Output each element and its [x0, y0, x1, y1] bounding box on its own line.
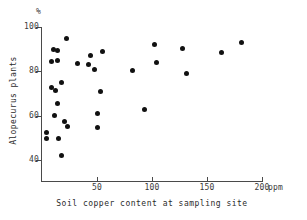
plot-area: % ppm Alopecurus plants Soil copper cont…: [0, 0, 307, 220]
y-tick-label: 100: [24, 23, 39, 31]
data-point: [59, 80, 64, 85]
data-point: [55, 101, 60, 106]
x-tick-mark: [207, 177, 208, 182]
data-point: [75, 61, 80, 66]
data-point: [59, 153, 64, 158]
data-point: [92, 67, 97, 72]
data-point: [56, 136, 61, 141]
data-point: [44, 130, 49, 135]
data-point: [142, 107, 147, 112]
x-axis-title: Soil copper content at sampling site: [41, 199, 263, 208]
x-tick-label: 100: [139, 184, 165, 192]
x-tick-mark: [152, 177, 153, 182]
y-tick-label: 40: [29, 156, 39, 164]
data-point: [152, 42, 157, 47]
scatter-plot-figure: % ppm Alopecurus plants Soil copper cont…: [0, 0, 307, 220]
y-tick-label: 80: [29, 67, 39, 75]
data-point: [55, 58, 60, 63]
data-point: [95, 111, 100, 116]
data-point: [53, 88, 58, 93]
data-point: [154, 60, 159, 65]
x-tick-mark: [262, 177, 263, 182]
data-point: [64, 36, 69, 41]
x-tick-label: 150: [194, 184, 220, 192]
data-point: [62, 119, 67, 124]
data-point: [95, 125, 100, 130]
data-point: [52, 113, 57, 118]
data-point: [86, 62, 91, 67]
data-point: [44, 136, 49, 141]
y-axis-unit-label: %: [36, 8, 41, 16]
data-point: [184, 71, 189, 76]
y-axis-title: Alopecurus plants: [9, 36, 18, 166]
y-tick-label: 60: [29, 112, 39, 120]
data-point: [49, 59, 54, 64]
data-point: [130, 68, 135, 73]
data-point: [55, 48, 60, 53]
data-point: [65, 124, 70, 129]
x-tick-label: 50: [84, 184, 110, 192]
data-point: [219, 50, 224, 55]
data-point: [100, 49, 105, 54]
data-point: [88, 53, 93, 58]
data-point: [180, 46, 185, 51]
data-point: [98, 89, 103, 94]
data-point: [239, 40, 244, 45]
x-tick-mark: [97, 177, 98, 182]
x-tick-label: 200: [249, 184, 275, 192]
y-axis-line: [41, 27, 42, 182]
